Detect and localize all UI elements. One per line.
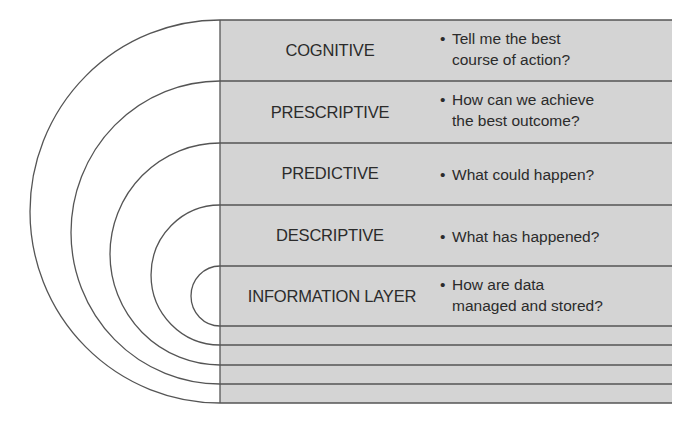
layer-label-descriptive: DESCRIPTIVE	[220, 226, 440, 245]
arc-information	[191, 266, 220, 326]
bullet-icon: •	[440, 226, 445, 247]
arc-prescriptive	[71, 81, 220, 384]
layer-label-prescriptive: PRESCRIPTIVE	[220, 103, 440, 122]
layer-question-prescriptive: • How can we achieve the best outcome?	[452, 89, 672, 131]
layer-question-predictive: • What could happen?	[452, 164, 672, 185]
layer-label-cognitive: COGNITIVE	[220, 41, 440, 60]
layer-label-information: INFORMATION LAYER	[222, 287, 442, 306]
layer-question-descriptive: • What has happened?	[452, 226, 672, 247]
bullet-icon: •	[440, 89, 445, 110]
layer-label-predictive: PREDICTIVE	[220, 164, 440, 183]
layer-question-cognitive: • Tell me the best course of action?	[452, 28, 672, 70]
arc-predictive	[110, 143, 220, 365]
layer-question-information: • How are data managed and stored?	[452, 274, 672, 316]
bullet-icon: •	[440, 28, 445, 49]
bullet-icon: •	[440, 164, 445, 185]
bullet-icon: •	[440, 274, 445, 295]
